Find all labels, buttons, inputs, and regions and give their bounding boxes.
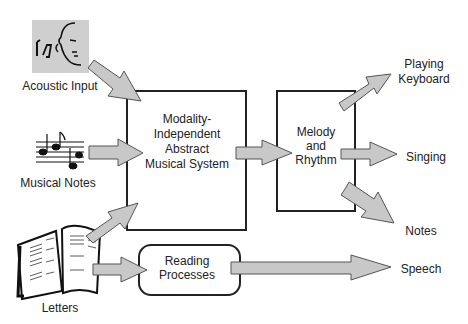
svg-text:Playing: Playing <box>404 57 443 71</box>
svg-text:Independent: Independent <box>154 127 221 141</box>
svg-text:Modality-: Modality- <box>163 112 212 126</box>
letters-label: Letters <box>42 301 79 315</box>
svg-text:Processes: Processes <box>159 268 215 282</box>
diagram-canvas: Acoustic Input Musical Notes <box>0 0 468 324</box>
svg-text:Abstract: Abstract <box>165 142 210 156</box>
musical-notes-label: Musical Notes <box>20 176 95 190</box>
reading-processes-text: Reading Processes <box>159 254 215 282</box>
ear-face-music-icon <box>32 20 89 73</box>
svg-text:and: and <box>306 139 326 153</box>
speech-label: Speech <box>401 262 442 276</box>
svg-text:Keyboard: Keyboard <box>398 72 449 86</box>
svg-text:Rhythm: Rhythm <box>295 153 336 167</box>
music-staff-icon <box>36 132 84 169</box>
notes-output-label: Notes <box>405 224 436 238</box>
svg-text:Melody: Melody <box>297 125 336 139</box>
singing-label: Singing <box>406 150 446 164</box>
playing-keyboard-label: Playing Keyboard <box>398 57 449 86</box>
arrow-reading-to-speech <box>231 255 391 280</box>
svg-text:Musical System: Musical System <box>145 157 229 171</box>
svg-text:Reading: Reading <box>165 254 210 268</box>
acoustic-input-label: Acoustic Input <box>22 79 98 93</box>
